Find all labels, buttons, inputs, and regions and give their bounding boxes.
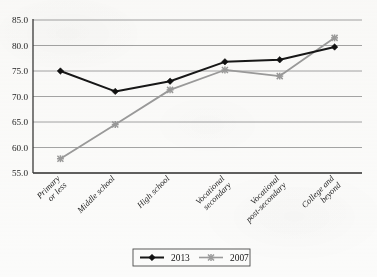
x-tick-label-group: High school <box>134 173 172 211</box>
series-2007 <box>57 34 338 162</box>
data-point-marker <box>221 67 228 74</box>
legend-label: 2013 <box>171 253 190 263</box>
data-point-marker <box>112 121 119 128</box>
data-point-marker <box>277 57 283 63</box>
x-tick-label-group: Middle school <box>74 173 117 216</box>
y-tick-label: 55.0 <box>12 168 28 178</box>
y-tick-label: 80.0 <box>12 41 28 51</box>
series-2013 <box>57 44 338 95</box>
x-tick-label-group: Primaryor less <box>34 173 69 208</box>
legend-label: 2007 <box>230 253 249 263</box>
y-axis-tick-labels: 85.080.075.070.065.060.055.0 <box>12 15 28 178</box>
data-point-marker <box>112 88 118 94</box>
data-point-marker <box>208 254 215 261</box>
data-point-marker <box>331 34 338 41</box>
chart-canvas: 85.080.075.070.065.060.055.0 Primaryor l… <box>0 0 377 277</box>
series-2013-markers <box>57 44 338 95</box>
y-tick-label: 60.0 <box>12 143 28 153</box>
line-chart: 85.080.075.070.065.060.055.0 Primaryor l… <box>0 0 377 277</box>
y-tick-label: 85.0 <box>12 15 28 25</box>
series-2013-line <box>60 47 334 91</box>
data-point-marker <box>167 78 173 84</box>
chart-legend: 20132007 <box>133 249 250 266</box>
x-tick-label: High school <box>134 173 172 211</box>
data-point-marker <box>331 44 337 50</box>
data-point-marker <box>167 86 174 93</box>
y-tick-label: 75.0 <box>12 66 28 76</box>
y-tick-label: 70.0 <box>12 92 28 102</box>
x-tick-label: Middle school <box>74 173 117 216</box>
x-axis-tick-labels: Primaryor lessMiddle schoolHigh schoolVo… <box>34 173 343 225</box>
x-tick-label-group: Vocationalpost-secondary <box>236 173 288 225</box>
x-tick-label-group: Vocationalsecondary <box>193 173 233 213</box>
gridlines <box>33 20 362 173</box>
x-tick-label-group: College andbeyond <box>299 173 343 217</box>
data-point-marker <box>57 68 63 74</box>
series-2007-markers <box>57 34 338 162</box>
data-point-marker <box>57 155 64 162</box>
data-point-marker <box>276 73 283 80</box>
data-point-marker <box>222 59 228 65</box>
y-tick-label: 65.0 <box>12 117 28 127</box>
